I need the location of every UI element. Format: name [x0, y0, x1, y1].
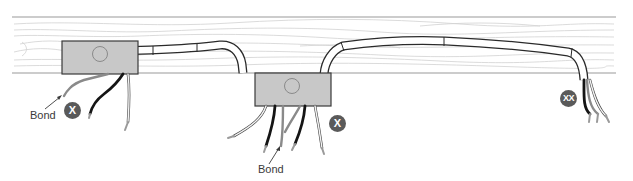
badge-x-left: X [64, 102, 81, 119]
wiring-diagram: Bond Bond X X XX [0, 0, 633, 181]
badge-xx-right: XX [560, 90, 577, 107]
bond-label-left: Bond [30, 109, 56, 121]
cable-end-wires [584, 80, 609, 122]
badge-x-center: X [329, 115, 346, 132]
wiring-illustration [0, 0, 633, 181]
bond-label-center: Bond [258, 163, 284, 175]
junction-box-1 [62, 41, 138, 74]
box2-wires [228, 106, 324, 154]
junction-box-2 [255, 73, 331, 106]
